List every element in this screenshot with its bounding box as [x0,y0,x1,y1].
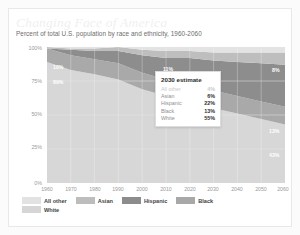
x-tick-2040: 2040 [225,186,249,192]
x-tick-2050: 2050 [249,186,273,192]
tooltip-title: 2030 estimate [161,76,215,83]
tooltip-value-black: 13% [204,108,215,115]
x-tick-1960: 1960 [35,186,59,192]
legend-item-asian[interactable]: Asian [76,197,113,204]
legend-label-asian: Asian [98,198,113,204]
legend-label-all-other: All other [44,198,67,204]
y-tick-75: 75% [16,78,42,84]
tooltip-value-white: 55% [204,115,215,122]
x-tick-2060: 2060 [271,186,295,192]
tooltip-row-all-other: All other 4% [161,86,215,93]
tooltip-label-white: White [161,115,175,122]
legend-swatch-black [176,197,195,204]
x-tick-2020: 2020 [178,186,202,192]
legend-item-all-other[interactable]: All other [22,197,67,204]
legend-swatch-all-other [22,197,41,204]
y-tick-25: 25% [16,144,42,150]
tooltip-value-asian: 6% [207,93,215,100]
page-title: Changing Face of America [16,15,167,31]
tooltip-label-black: Black [161,108,174,115]
y-tick-100: 100% [16,45,42,51]
x-tick-1990: 1990 [106,186,130,192]
label-left-white: 89% [53,79,63,85]
tooltip-row-white: White 55% [161,115,215,122]
legend-item-white[interactable]: White [22,206,59,213]
legend-label-white: White [44,207,59,213]
chart-subtitle: Percent of total U.S. population by race… [16,30,202,37]
legend-swatch-hispanic [122,197,141,204]
x-tick-2000: 2000 [130,186,154,192]
tooltip-2030-estimate: 2030 estimate All other 4% Asian 6% Hisp… [155,71,221,127]
legend-label-black: Black [198,198,213,204]
tooltip-label-asian: Asian [161,93,175,100]
screenshot-root: Changing Face of America Percent of tota… [0,0,300,235]
x-tick-1970: 1970 [59,186,83,192]
chart-legend: All other Asian Hispanic Black [22,197,282,215]
label-right-black: 13% [269,128,279,134]
label-left-black: 10% [53,64,63,70]
legend-row-2: White [22,206,282,213]
legend-label-hispanic: Hispanic [144,198,167,204]
tooltip-row-asian: Asian 6% [161,93,215,100]
y-tick-50: 50% [16,111,42,117]
tooltip-row-black: Black 13% [161,108,215,115]
chart-card: Changing Face of America Percent of tota… [8,8,292,227]
label-right-white: 43% [269,152,279,158]
tooltip-label-all-other: All other [161,86,181,93]
label-right-top: 8% [272,67,280,73]
legend-swatch-asian [76,197,95,204]
tooltip-row-hispanic: Hispanic 22% [161,100,215,107]
tooltip-label-hispanic: Hispanic [161,100,182,107]
legend-swatch-white [22,206,41,213]
legend-item-black[interactable]: Black [176,197,213,204]
tooltip-value-hispanic: 22% [204,100,215,107]
legend-row-1: All other Asian Hispanic Black [22,197,282,204]
x-tick-1980: 1980 [83,186,107,192]
x-tick-2030: 2030 [201,186,225,192]
legend-item-hispanic[interactable]: Hispanic [122,197,167,204]
x-tick-2010: 2010 [154,186,178,192]
tooltip-value-all-other: 4% [207,86,215,93]
